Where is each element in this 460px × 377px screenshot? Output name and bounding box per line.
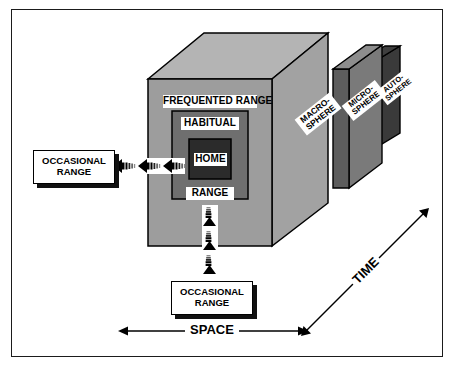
range-label: RANGE	[186, 187, 234, 200]
occasional-range-left-line2: RANGE	[57, 167, 91, 178]
occasional-range-bottom-box: OCCASIONAL RANGE	[171, 281, 253, 315]
habitual-label: HABITUAL	[181, 117, 239, 130]
home-label: HOME	[194, 153, 227, 166]
diagram-canvas: FREQUENTED RANGE HABITUAL HOME RANGE MAC…	[0, 0, 460, 377]
occasional-range-bottom-line2: RANGE	[195, 298, 229, 309]
occasional-range-left-box: OCCASIONAL RANGE	[33, 150, 115, 184]
space-axis-label: SPACE	[185, 322, 239, 337]
frequented-range-label: FREQUENTED RANGE	[163, 95, 257, 108]
